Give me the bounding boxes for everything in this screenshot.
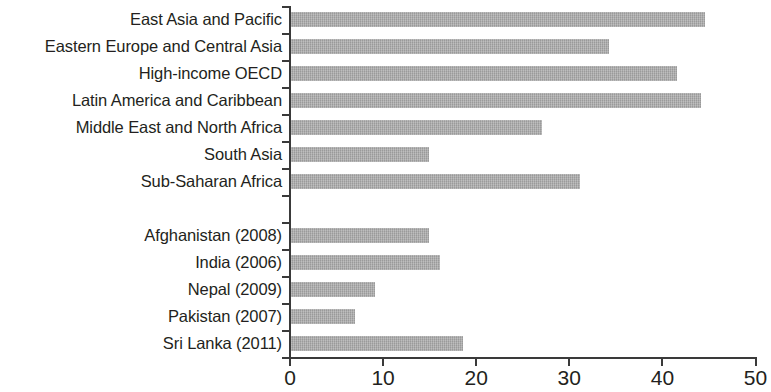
x-axis-tick <box>568 357 570 366</box>
chart-row: Eastern Europe and Central Asia <box>0 33 765 60</box>
category-label: East Asia and Pacific <box>130 6 282 33</box>
bar <box>291 66 677 81</box>
chart-row: South Asia <box>0 141 765 168</box>
x-axis-tick-label: 20 <box>446 366 506 390</box>
category-label: Sub-Saharan Africa <box>141 168 282 195</box>
category-label: High-income OECD <box>139 60 282 87</box>
bar <box>291 147 429 162</box>
chart-rows: East Asia and PacificEastern Europe and … <box>0 0 765 358</box>
category-label: Sri Lanka (2011) <box>163 330 282 357</box>
category-label: Nepal (2009) <box>188 276 282 303</box>
x-axis-tick <box>382 357 384 366</box>
bar <box>291 174 580 189</box>
x-axis-tick-label: 30 <box>539 366 599 390</box>
x-axis-tick <box>475 357 477 366</box>
category-label: India (2006) <box>195 249 282 276</box>
bar <box>291 93 701 108</box>
y-axis-line <box>289 6 291 358</box>
chart-row: East Asia and Pacific <box>0 6 765 33</box>
category-label: Afghanistan (2008) <box>144 222 282 249</box>
bar <box>291 228 429 243</box>
bar <box>291 309 355 324</box>
x-axis-tick-label: 0 <box>260 366 320 390</box>
chart-row-spacer <box>0 195 765 222</box>
chart-row: Pakistan (2007) <box>0 303 765 330</box>
category-label: Middle East and North Africa <box>76 114 282 141</box>
x-axis-tick <box>755 357 757 366</box>
category-label: Eastern Europe and Central Asia <box>45 33 282 60</box>
chart-row: Nepal (2009) <box>0 276 765 303</box>
bar <box>291 282 375 297</box>
x-axis-tick <box>289 357 291 366</box>
chart-row: India (2006) <box>0 249 765 276</box>
x-axis-tick-label: 50 <box>726 366 771 390</box>
chart-row: Afghanistan (2008) <box>0 222 765 249</box>
x-axis-tick <box>661 357 663 366</box>
chart-row: High-income OECD <box>0 60 765 87</box>
x-axis-tick-label: 40 <box>632 366 692 390</box>
bar <box>291 120 542 135</box>
category-label: Latin America and Caribbean <box>72 87 282 114</box>
bar <box>291 12 705 27</box>
bar <box>291 255 440 270</box>
chart-row: Middle East and North Africa <box>0 114 765 141</box>
bar <box>291 336 463 351</box>
chart-row: Sub-Saharan Africa <box>0 168 765 195</box>
category-label: South Asia <box>204 141 282 168</box>
x-axis-tick-label: 10 <box>353 366 413 390</box>
chart-row: Sri Lanka (2011) <box>0 330 765 357</box>
chart-row: Latin America and Caribbean <box>0 87 765 114</box>
x-axis-line <box>289 357 755 359</box>
bar <box>291 39 609 54</box>
category-label: Pakistan (2007) <box>168 303 282 330</box>
